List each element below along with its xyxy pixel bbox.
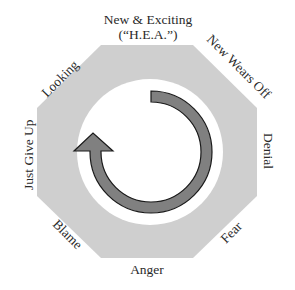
stage-label-anger: Anger (130, 262, 164, 277)
stage-label-just-give-up: Just Give Up (21, 119, 36, 190)
stage-label-denial: Denial (261, 133, 276, 169)
relationship-cycle-diagram: New & Exciting (“H.E.A.”) New Wears Off … (0, 0, 295, 290)
stage-label-hea: (“H.E.A.”) (119, 27, 178, 42)
stage-label-new-exciting: New & Exciting (104, 12, 193, 27)
